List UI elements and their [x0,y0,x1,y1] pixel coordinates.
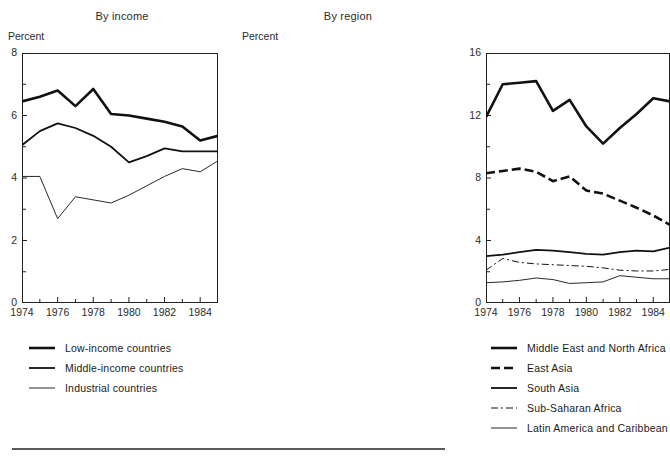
y-tick-label: 4 [464,234,481,246]
series-line [486,258,670,271]
legend-label: East Asia [527,362,573,374]
series-line [22,89,218,141]
legend-item[interactable]: South Asia [490,378,668,398]
x-tick-label: 1982 [604,306,636,318]
plot-frame [487,54,670,303]
y-tick-label: 16 [464,46,481,58]
page-title-by-income: By income [8,10,236,22]
y-tick-label: 4 [0,171,17,183]
legend-item[interactable]: East Asia [490,358,668,378]
legend-swatch-icon [28,342,56,354]
x-tick-label: 1974 [6,306,38,318]
legend-label: Middle-income countries [65,362,183,374]
plot-frame [23,54,218,303]
legend-label: Low-income countries [65,342,171,354]
legend-by-region: Middle East and North AfricaEast AsiaSou… [490,338,668,438]
legend-item[interactable]: Latin America and Caribbean [490,418,668,438]
y-tick-label: 8 [0,46,17,58]
y-axis-label-region: Percent [242,30,278,42]
series-line [486,276,670,284]
page-title-by-region: By region [234,10,462,22]
legend-item[interactable]: Middle East and North Africa [490,338,668,358]
chart-panel-by-region: By region Percent 0481216 19741976197819… [228,0,456,430]
data-series-group-region [486,81,670,283]
legend-item[interactable]: Sub-Saharan Africa [490,398,668,418]
legend-label: Middle East and North Africa [527,342,666,354]
series-line [486,81,670,144]
y-tick-label: 2 [0,234,17,246]
y-axis-label-income: Percent [8,30,44,42]
y-tick-label: 12 [464,109,481,121]
legend-swatch-icon [28,382,56,394]
x-tick-label: 1976 [42,306,74,318]
plot-svg-by-income [22,53,218,303]
legend-swatch-icon [490,382,518,394]
x-tick-label: 1984 [184,306,216,318]
legend-swatch-icon [28,362,56,374]
series-line [486,248,670,257]
axis-ticks-income [22,53,218,303]
x-tick-label: 1980 [570,306,602,318]
legend-label: Sub-Saharan Africa [527,402,622,414]
legend-item[interactable]: Middle-income countries [28,358,183,378]
legend-label: Latin America and Caribbean [527,422,668,434]
legend-swatch-icon [490,422,518,434]
x-tick-label: 1978 [77,306,109,318]
plot-area-by-region [486,53,670,303]
legend-item[interactable]: Industrial countries [28,378,183,398]
data-series-group-income [22,89,218,219]
y-tick-label: 6 [0,109,17,121]
legend-by-income: Low-income countriesMiddle-income countr… [28,338,183,398]
legend-swatch-icon [490,402,518,414]
plot-svg-by-region [486,53,670,303]
legend-label: South Asia [527,382,579,394]
legend-label: Industrial countries [65,382,157,394]
plot-area-by-income [22,53,218,303]
series-line [22,161,218,219]
bottom-divider [12,448,445,450]
x-tick-label: 1974 [470,306,502,318]
legend-item[interactable]: Low-income countries [28,338,183,358]
legend-swatch-icon [490,342,518,354]
legend-swatch-icon [490,362,518,374]
series-line [22,123,218,162]
x-tick-label: 1976 [503,306,535,318]
x-tick-label: 1982 [149,306,181,318]
series-line [486,169,670,225]
x-tick-label: 1978 [537,306,569,318]
chart-panel-by-income: By income Percent 02468 1974197619781980… [0,0,228,430]
x-tick-label: 1980 [113,306,145,318]
y-tick-label: 8 [464,171,481,183]
x-tick-label: 1984 [637,306,669,318]
